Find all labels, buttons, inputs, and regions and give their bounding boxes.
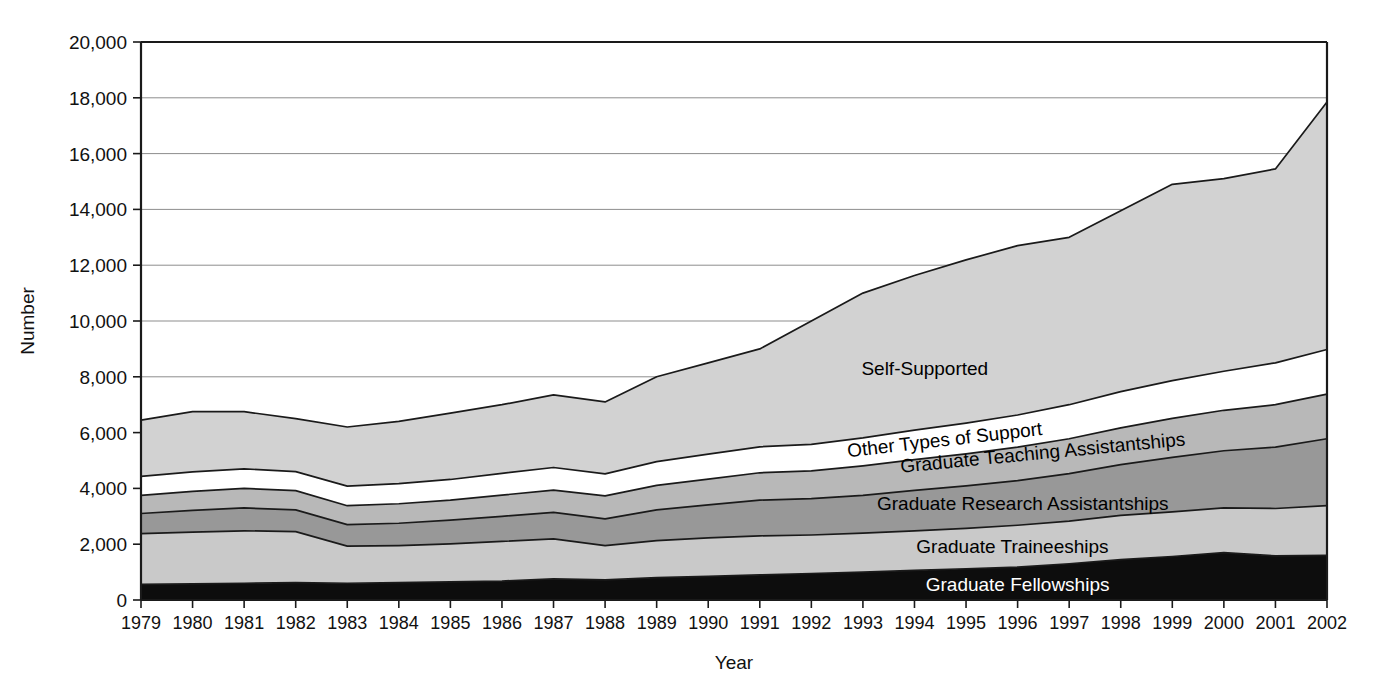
y-tick-label: 10,000 xyxy=(69,311,127,332)
y-axis-title: Number xyxy=(17,287,38,355)
x-tick-label: 1981 xyxy=(224,613,264,633)
x-tick-label: 1983 xyxy=(327,613,367,633)
x-tick-label: 1985 xyxy=(430,613,470,633)
x-tick-label: 1982 xyxy=(276,613,316,633)
x-tick-label: 1989 xyxy=(637,613,677,633)
y-tick-label: 4,000 xyxy=(79,478,127,499)
y-tick-label: 12,000 xyxy=(69,255,127,276)
x-tick-label: 1979 xyxy=(121,613,161,633)
x-tick-label: 1994 xyxy=(894,613,934,633)
x-tick-label: 1998 xyxy=(1101,613,1141,633)
x-tick-label: 1991 xyxy=(740,613,780,633)
x-tick-label: 1999 xyxy=(1152,613,1192,633)
x-tick-label: 1990 xyxy=(688,613,728,633)
x-tick-label: 2000 xyxy=(1204,613,1244,633)
y-tick-label: 20,000 xyxy=(69,32,127,53)
x-tick-label: 1986 xyxy=(482,613,522,633)
x-tick-label: 1995 xyxy=(946,613,986,633)
x-tick-label: 1987 xyxy=(533,613,573,633)
x-tick-label: 2001 xyxy=(1255,613,1295,633)
series-label: Graduate Research Assistantships xyxy=(877,493,1169,514)
figure-container: 02,0004,0006,0008,00010,00012,00014,0001… xyxy=(0,0,1375,684)
y-tick-label: 18,000 xyxy=(69,88,127,109)
series-label: Graduate Fellowships xyxy=(926,574,1110,595)
series-label: Self-Supported xyxy=(861,358,988,379)
x-tick-label: 1997 xyxy=(1049,613,1089,633)
x-tick-label: 1984 xyxy=(379,613,419,633)
x-tick-label: 1988 xyxy=(585,613,625,633)
x-tick-label: 1992 xyxy=(791,613,831,633)
x-tick-label: 2002 xyxy=(1307,613,1347,633)
y-tick-label: 0 xyxy=(116,590,127,611)
series-label: Graduate Traineeships xyxy=(916,536,1108,557)
x-tick-label: 1993 xyxy=(843,613,883,633)
y-tick-label: 14,000 xyxy=(69,199,127,220)
x-tick-label: 1980 xyxy=(173,613,213,633)
y-tick-label: 6,000 xyxy=(79,423,127,444)
y-tick-label: 2,000 xyxy=(79,534,127,555)
x-axis-title: Year xyxy=(715,652,754,673)
y-tick-label: 8,000 xyxy=(79,367,127,388)
x-tick-label: 1996 xyxy=(998,613,1038,633)
stacked-area-chart: 02,0004,0006,0008,00010,00012,00014,0001… xyxy=(0,0,1375,684)
y-tick-label: 16,000 xyxy=(69,144,127,165)
